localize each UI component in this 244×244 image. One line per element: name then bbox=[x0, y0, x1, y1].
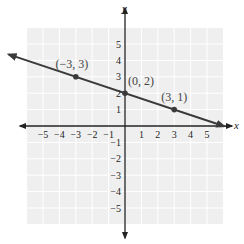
y-tick-label: 2 bbox=[116, 88, 121, 99]
y-tick-label: −3 bbox=[110, 170, 121, 181]
point-label: (3, 1) bbox=[161, 90, 187, 104]
y-tick-label: −4 bbox=[110, 186, 121, 197]
y-tick-label: −2 bbox=[110, 153, 121, 164]
y-tick-label: −1 bbox=[110, 137, 121, 148]
y-tick-label: 1 bbox=[116, 104, 121, 115]
x-tick-label: −5 bbox=[38, 129, 49, 140]
y-tick-label: 3 bbox=[116, 71, 121, 82]
coordinate-plane: x y −5−4−3−2−112345 54321−1−2−3−4−5 (−3,… bbox=[0, 0, 244, 244]
y-tick-label: 5 bbox=[116, 39, 121, 50]
y-tick-label: 4 bbox=[116, 55, 121, 66]
x-tick-label: −2 bbox=[87, 129, 98, 140]
data-point bbox=[171, 107, 177, 113]
x-axis-label: x bbox=[233, 119, 239, 131]
x-tick-label: 1 bbox=[139, 129, 144, 140]
data-point bbox=[122, 90, 128, 96]
x-tick-label: −3 bbox=[70, 129, 81, 140]
data-point bbox=[73, 74, 79, 80]
x-tick-label: −4 bbox=[54, 129, 65, 140]
point-label: (0, 2) bbox=[128, 74, 154, 88]
y-axis-label: y bbox=[121, 2, 127, 14]
x-tick-label: 5 bbox=[205, 129, 210, 140]
x-tick-label: 2 bbox=[155, 129, 160, 140]
x-tick-label: 4 bbox=[188, 129, 193, 140]
x-tick-label: 3 bbox=[172, 129, 177, 140]
y-tick-label: −5 bbox=[110, 203, 121, 214]
point-label: (−3, 3) bbox=[55, 57, 88, 71]
